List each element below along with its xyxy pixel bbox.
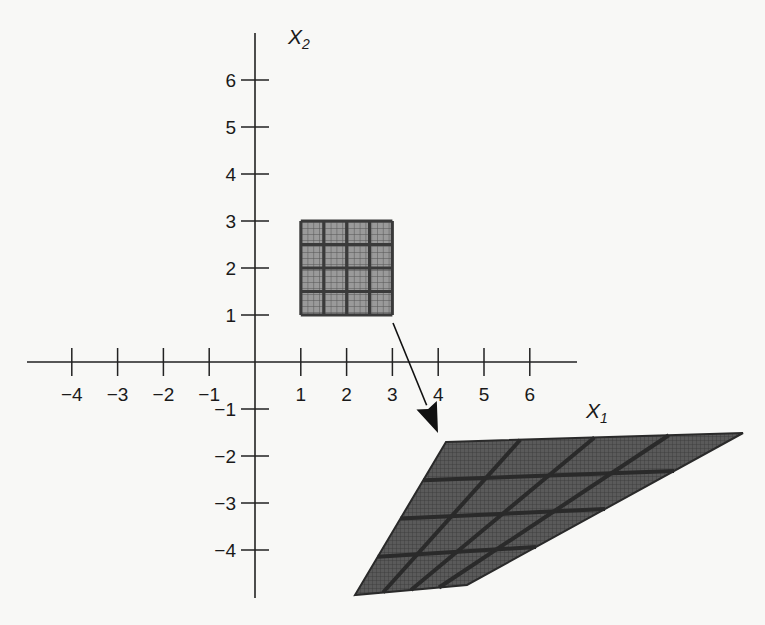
y-tick-label: −2 xyxy=(214,446,236,467)
x-tick-label: 3 xyxy=(387,384,398,405)
y-tick-label: 4 xyxy=(225,164,236,185)
x-tick-label: 5 xyxy=(479,384,490,405)
x-axis-ticks: −4−3−2−1123456 xyxy=(61,348,535,405)
y-tick-label: 2 xyxy=(225,258,236,279)
y-axis-ticks: 654321−1−2−3−4 xyxy=(214,70,269,561)
y-axis-label: X2 xyxy=(287,25,310,52)
transformation-diagram: −4−3−2−1123456 654321−1−2−3−4 X2 X1 xyxy=(0,0,765,625)
y-tick-label: −3 xyxy=(214,493,236,514)
arrow-shaft xyxy=(393,323,427,405)
x-axis-label: X1 xyxy=(585,399,608,426)
x-tick-label: −2 xyxy=(153,384,175,405)
diagram-canvas: −4−3−2−1123456 654321−1−2−3−4 X2 X1 xyxy=(0,0,765,625)
mapped-region-grid xyxy=(355,433,743,595)
y-tick-label: −4 xyxy=(214,540,236,561)
x-tick-label: 4 xyxy=(433,384,444,405)
y-tick-label: −1 xyxy=(214,399,236,420)
y-tick-label: 1 xyxy=(225,305,236,326)
x-tick-label: 6 xyxy=(525,384,536,405)
y-tick-label: 5 xyxy=(225,117,236,138)
x-tick-label: −4 xyxy=(61,384,83,405)
x-tick-label: −3 xyxy=(107,384,129,405)
mapping-arrow xyxy=(393,323,438,433)
arrow-head-icon xyxy=(416,401,438,433)
x-tick-label: 1 xyxy=(296,384,307,405)
y-tick-label: 3 xyxy=(225,211,236,232)
y-tick-label: 6 xyxy=(225,70,236,91)
source-region-grid xyxy=(301,221,393,315)
x-tick-label: 2 xyxy=(341,384,352,405)
